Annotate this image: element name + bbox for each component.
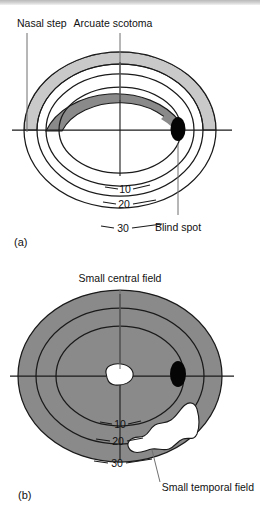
iso-10-leader-right: [133, 185, 150, 189]
blind-spot-label: Blind spot: [155, 221, 201, 233]
nasal-step-label: Nasal step: [17, 17, 67, 29]
iso-20-leader-left: [103, 202, 116, 204]
panel-b-figure: Small central field Small temporal field…: [0, 254, 260, 508]
small-temporal-field-label: Small temporal field: [162, 481, 254, 493]
isopter-20-label: 20: [118, 198, 130, 210]
panel-b-label: (b): [18, 489, 31, 501]
iso-30-leader-left: [101, 226, 114, 228]
blind-spot-marker: [171, 117, 186, 141]
isopter-30-label: 30: [117, 222, 129, 234]
isopter-30-label: 30: [111, 457, 123, 469]
isopter-10-label: 10: [114, 418, 126, 430]
panel-a-label: (a): [14, 236, 27, 248]
arcuate-scotoma-label: Arcuate scotoma: [74, 17, 153, 29]
isopter-20-label: 20: [112, 435, 124, 447]
small-central-field-label: Small central field: [79, 272, 162, 284]
isopter-10-label: 10: [119, 183, 131, 195]
panel-a-figure: Nasal step Arcuate scotoma Blind spot 10…: [0, 0, 260, 254]
blind-spot-marker: [170, 361, 186, 387]
iso-10-leader-left: [105, 187, 118, 189]
